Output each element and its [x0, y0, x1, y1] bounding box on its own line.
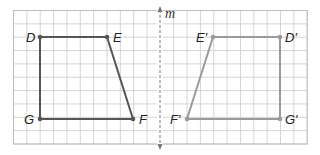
vertex-D-prime-point	[278, 35, 283, 40]
reflection-diagram: m DEFG D′E′F′G′	[0, 0, 320, 155]
axis-label-m: m	[165, 6, 175, 21]
vertex-F-point	[131, 117, 136, 122]
vertex-E-prime-label: E′	[196, 30, 208, 45]
figure-DEFG: DEFG	[24, 30, 148, 127]
vertex-E-prime-point	[211, 35, 216, 40]
vertex-D-label: D	[26, 30, 35, 45]
figure-D-prime-E-prime-F-prime-G-prime: D′E′F′G′	[170, 30, 298, 127]
vertex-G-label: G	[24, 112, 34, 127]
vertex-G-prime-label: G′	[285, 112, 298, 127]
vertex-G-point	[38, 117, 43, 122]
line-of-reflection-m: m	[157, 6, 175, 150]
vertex-F-prime-point	[185, 117, 190, 122]
vertex-D-prime-label: D′	[285, 30, 297, 45]
vertex-G-prime-point	[278, 117, 283, 122]
vertex-E-label: E	[113, 30, 122, 45]
vertex-F-prime-label: F′	[170, 112, 181, 127]
vertex-F-label: F	[139, 112, 148, 127]
figure-outline	[187, 37, 280, 119]
vertex-D-point	[38, 35, 43, 40]
vertex-E-point	[105, 35, 110, 40]
